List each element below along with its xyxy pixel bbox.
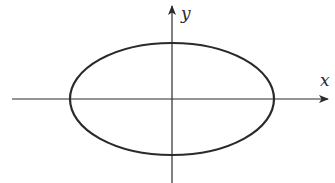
y-axis-label: y xyxy=(180,3,191,23)
x-axis-label: x xyxy=(320,70,330,90)
ellipse-diagram: y x xyxy=(0,0,335,183)
